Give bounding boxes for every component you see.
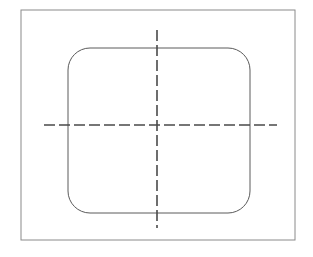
technical-drawing xyxy=(0,0,313,257)
drawing-canvas xyxy=(0,0,313,257)
